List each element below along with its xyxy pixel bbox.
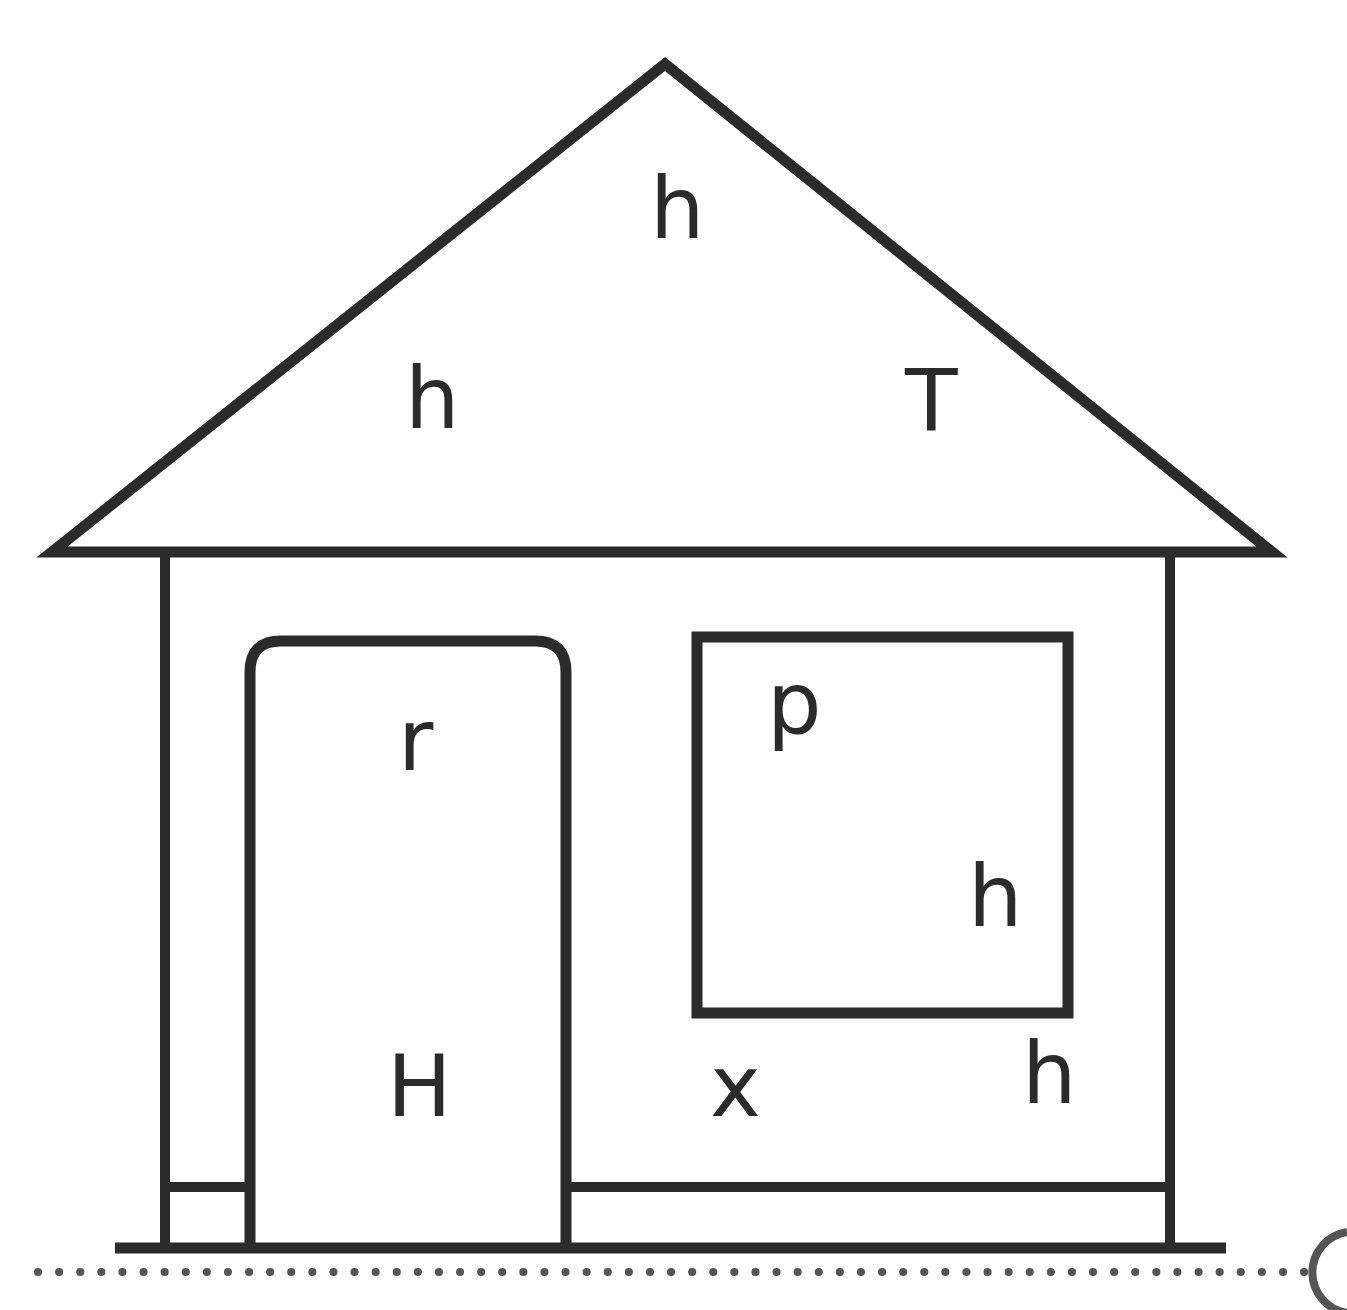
label-wall-right-bottom: h bbox=[1022, 1030, 1077, 1116]
label-wall-left-bottom: x bbox=[710, 1043, 761, 1129]
label-door-top: r bbox=[398, 697, 433, 783]
label-window-top: p bbox=[767, 660, 822, 746]
label-roof-right: T bbox=[905, 357, 958, 443]
figure-canvas: h h T r H p h x h bbox=[0, 0, 1347, 1310]
label-roof-top: h bbox=[650, 165, 705, 251]
label-window-bottom: h bbox=[968, 853, 1023, 939]
roof-triangle bbox=[52, 64, 1272, 552]
label-door-bottom: H bbox=[387, 1043, 452, 1129]
window-outline bbox=[697, 637, 1068, 1013]
corner-arc bbox=[1312, 1232, 1347, 1310]
label-roof-left: h bbox=[405, 355, 460, 441]
